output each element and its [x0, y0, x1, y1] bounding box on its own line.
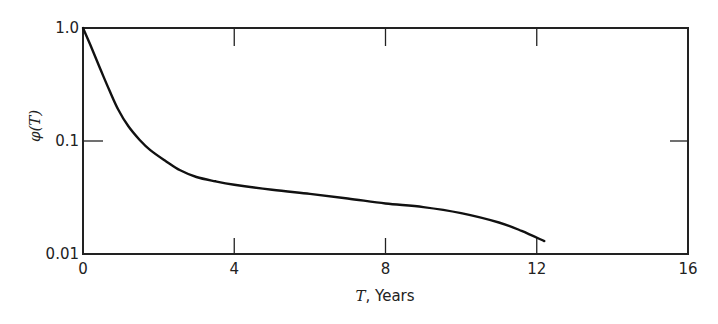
x-tick-label: 12 — [527, 260, 546, 278]
y-tick-labels: 0.010.11.0 — [46, 19, 79, 263]
x-tick-label: 0 — [78, 260, 88, 278]
x-tick-label: 4 — [229, 260, 239, 278]
x-tick-labels: 0481216 — [78, 260, 697, 278]
y-tick-label: 1.0 — [55, 19, 79, 37]
x-axis-label: T, Years — [355, 287, 414, 305]
chart: 0481216 0.010.11.0 T, Years φ(T) — [0, 0, 718, 324]
y-axis-label: φ(T) — [26, 110, 44, 142]
x-tick-label: 16 — [678, 260, 697, 278]
y-tick-label: 0.01 — [46, 245, 79, 263]
y-tick-label: 0.1 — [55, 132, 79, 150]
ticks — [83, 28, 688, 254]
x-tick-label: 8 — [381, 260, 391, 278]
data-line — [83, 28, 544, 241]
plot-frame — [83, 28, 688, 254]
